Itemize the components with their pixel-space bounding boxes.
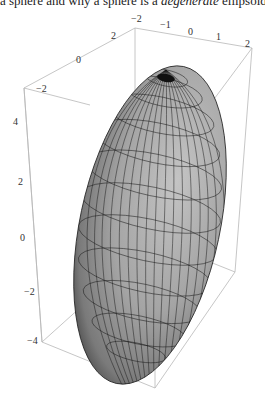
svg-text:0: 0 bbox=[76, 54, 81, 65]
svg-text:−2: −2 bbox=[36, 83, 47, 94]
svg-text:−1: −1 bbox=[160, 19, 171, 30]
svg-text:2: 2 bbox=[18, 176, 23, 187]
svg-text:−2: −2 bbox=[131, 13, 142, 24]
x-axis-ticks: −2 −1 0 1 2 bbox=[131, 13, 250, 49]
svg-text:1: 1 bbox=[216, 31, 221, 42]
y-axis-ticks: 2 0 −2 bbox=[36, 30, 116, 94]
svg-text:−4: −4 bbox=[27, 335, 38, 346]
svg-text:2: 2 bbox=[111, 30, 116, 41]
ellipsoid-plot: −2 −1 0 1 2 2 0 −2 4 2 0 −2 −4 bbox=[0, 0, 265, 403]
svg-text:4: 4 bbox=[13, 116, 18, 127]
svg-text:2: 2 bbox=[245, 38, 250, 49]
bounding-box-front bbox=[24, 88, 42, 342]
svg-text:0: 0 bbox=[20, 232, 25, 243]
svg-text:−2: −2 bbox=[24, 286, 35, 297]
svg-text:0: 0 bbox=[188, 26, 193, 37]
ellipsoid-surface bbox=[48, 52, 252, 398]
